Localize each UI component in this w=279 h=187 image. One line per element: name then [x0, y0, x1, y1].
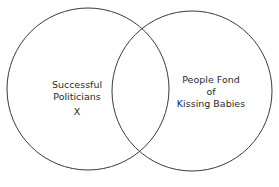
- left-set-label: Successful Politicians X: [52, 79, 102, 118]
- right-set-label-line-2: of: [177, 86, 245, 98]
- left-set-label-line-1: Successful: [52, 79, 102, 91]
- venn-diagram: Successful Politicians X People Fond of …: [0, 0, 279, 187]
- left-set-label-line-2: Politicians: [52, 91, 102, 103]
- x-marker: X: [52, 106, 102, 118]
- right-set-label: People Fond of Kissing Babies: [177, 74, 245, 110]
- right-set-label-line-3: Kissing Babies: [177, 98, 245, 110]
- right-set-label-line-1: People Fond: [177, 74, 245, 86]
